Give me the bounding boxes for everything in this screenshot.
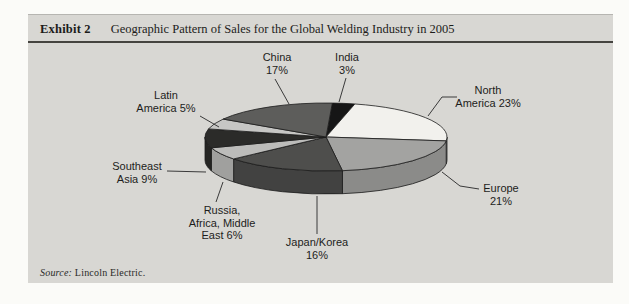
slice-label-china: China17% [263, 51, 292, 76]
leader-line-russia-africa-middle-east [216, 182, 223, 202]
slice-label-russia-africa-middle-east: Russia,Africa, MiddleEast 6% [189, 204, 256, 242]
slice-label-line: North [455, 84, 520, 97]
slice-label-line: America 5% [136, 102, 195, 115]
slice-label-line: Japan/Korea [286, 236, 348, 249]
slice-label-india: India3% [335, 51, 359, 76]
slice-label-japan-korea: Japan/Korea16% [286, 236, 348, 261]
slice-label-line: 16% [286, 249, 348, 262]
slice-label-line: 3% [335, 64, 359, 77]
leader-line-europe [442, 172, 479, 189]
slice-label-europe: Europe21% [483, 182, 518, 207]
slice-label-line: Asia 9% [112, 173, 162, 186]
leader-line-india [339, 78, 346, 102]
slice-label-line: Latin [136, 89, 195, 102]
slice-label-line: 21% [483, 195, 518, 208]
slice-label-line: Europe [483, 182, 518, 195]
slice-label-north-america: NorthAmerica 23% [455, 84, 520, 109]
slice-label-line: East 6% [189, 229, 256, 242]
slice-label-line: China [263, 51, 292, 64]
leader-line-north-america [428, 97, 457, 116]
slice-label-line: Africa, Middle [189, 217, 256, 230]
slice-label-line: Southeast [112, 160, 162, 173]
pie-chart: China17%India3%NorthAmerica 23%Europe21%… [0, 0, 629, 304]
leader-line-southeast-asia [167, 171, 206, 172]
slice-label-line: Russia, [189, 204, 256, 217]
leader-line-latin-america [200, 116, 219, 127]
slice-label-line: 17% [263, 64, 292, 77]
slice-label-line: India [335, 51, 359, 64]
leader-line-china [275, 79, 289, 104]
slice-label-latin-america: LatinAmerica 5% [136, 89, 195, 114]
slice-label-southeast-asia: SoutheastAsia 9% [112, 160, 162, 185]
slice-label-line: America 23% [455, 97, 520, 110]
